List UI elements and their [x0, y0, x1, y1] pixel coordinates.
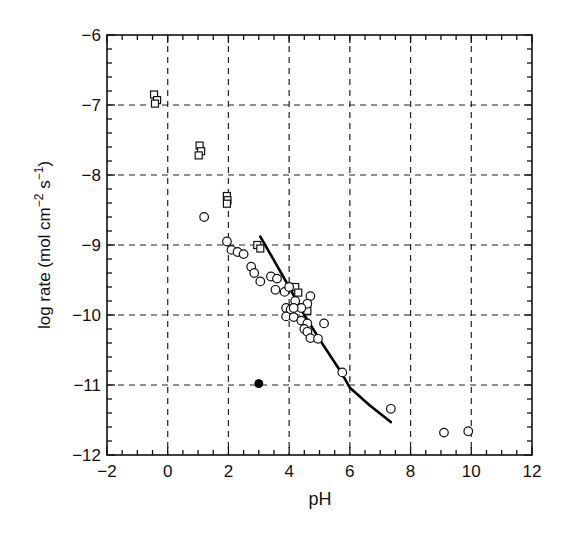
x-tick-label: 8	[406, 462, 415, 481]
x-tick-label: 0	[163, 462, 172, 481]
y-tick-label: −8	[82, 166, 101, 185]
square-marker	[295, 289, 302, 296]
fit-curve	[260, 237, 391, 423]
fit-curve-line	[260, 237, 391, 423]
square-marker	[151, 100, 158, 107]
x-tick-label: 4	[284, 462, 293, 481]
y-label-mid: s	[35, 180, 54, 193]
x-tick-label: 6	[345, 462, 354, 481]
circle-marker	[338, 368, 347, 377]
y-tick-label: −10	[72, 306, 101, 325]
y-tick-label: −11	[73, 376, 101, 395]
circle-marker	[223, 237, 232, 246]
x-tick-label: 10	[462, 462, 481, 481]
square-marker	[257, 245, 264, 252]
y-label-end: )	[35, 161, 54, 167]
circle-marker	[250, 269, 259, 278]
grid-lines	[107, 35, 532, 455]
circle-marker	[256, 277, 265, 286]
y-label-sup1: −2	[32, 193, 46, 207]
circle-marker	[387, 405, 396, 414]
filled-circle-marker	[255, 380, 263, 388]
circle-marker	[464, 427, 473, 436]
circle-marker	[440, 428, 449, 437]
x-tick-label: 2	[224, 462, 233, 481]
circle-marker	[289, 304, 298, 313]
circle-marker	[200, 213, 209, 222]
y-tick-label: −12	[72, 446, 101, 465]
chart: −2024681012−12−11−10−9−8−7−6 pH log rate…	[0, 0, 571, 536]
y-tick-label: −9	[82, 236, 101, 255]
circle-marker	[239, 250, 248, 259]
y-axis-label: log rate (mol cm−2 s−1)	[32, 161, 54, 329]
circle-marker	[271, 286, 280, 295]
y-label-sup2: −1	[32, 166, 46, 180]
x-tick-label: 12	[523, 462, 542, 481]
square-marker	[223, 200, 230, 207]
y-tick-label: −7	[82, 96, 101, 115]
y-label-main: log rate (mol cm	[35, 207, 54, 329]
y-tick-label: −6	[82, 26, 101, 45]
circle-marker	[314, 335, 323, 344]
circle-marker	[285, 283, 294, 292]
circle-marker	[273, 274, 282, 283]
circle-marker	[320, 319, 329, 328]
x-axis-label: pH	[308, 489, 331, 509]
square-marker	[195, 152, 202, 159]
